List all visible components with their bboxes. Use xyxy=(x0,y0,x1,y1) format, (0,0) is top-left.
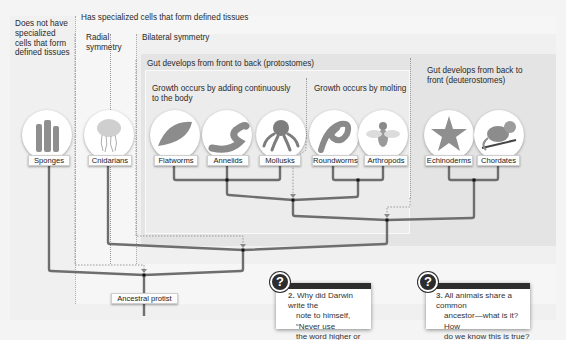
starfish-icon xyxy=(424,110,474,160)
octopus-icon xyxy=(256,110,306,160)
taxon-label-arthropods: Arthropods xyxy=(364,155,408,166)
earthworm-icon xyxy=(202,110,252,160)
question-icon: ? xyxy=(418,272,438,292)
taxon-label-annelids: Annelids xyxy=(207,155,249,166)
jellyfish-icon xyxy=(84,110,134,160)
question-2-line-1: Why did Darwin write the xyxy=(288,291,353,310)
question-2-text: 2. Why did Darwin write the note to hims… xyxy=(288,291,372,340)
roundworm-icon xyxy=(309,110,359,160)
sponge-icon xyxy=(22,110,72,160)
taxon-label-flatworms: Flatworms xyxy=(154,155,198,166)
flatworm-icon xyxy=(150,110,200,160)
question-card-2-header-bar xyxy=(288,283,371,289)
question-card-3-header-bar xyxy=(436,283,530,289)
taxon-label-chordates: Chordates xyxy=(477,155,520,166)
question-3-number: 3. xyxy=(436,291,443,300)
question-icon: ? xyxy=(270,272,290,292)
root-label-ancestral-protist: Ancestral protist xyxy=(111,293,178,304)
question-2-number: 2. xyxy=(288,291,295,300)
taxon-label-sponges: Sponges xyxy=(28,155,70,166)
question-3-text: 3. All animals share a common ancestor—w… xyxy=(436,291,530,340)
taxon-label-mollusks: Mollusks xyxy=(259,155,301,166)
taxon-label-cnidarians: Cnidarians xyxy=(88,155,132,166)
question-3-line-3: do we know this is true? xyxy=(436,332,530,340)
question-2-line-3: the word higher or lower”? xyxy=(288,332,372,340)
question-3-line-1: All animals share a common xyxy=(436,291,512,310)
monkey-icon xyxy=(474,110,524,160)
taxon-label-echinoderms: Echinoderms xyxy=(425,155,473,166)
fly-icon xyxy=(358,110,408,160)
question-3-line-2: ancestor—what is it? How xyxy=(436,311,530,331)
taxon-label-roundworms: Roundworms xyxy=(312,155,358,166)
question-2-line-2: note to himself, “Never use xyxy=(288,311,372,331)
